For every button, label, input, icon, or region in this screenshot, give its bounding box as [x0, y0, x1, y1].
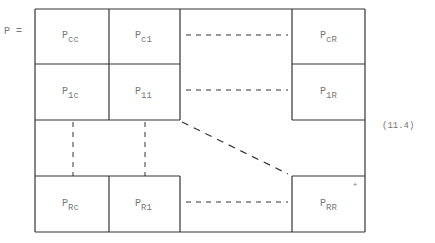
matrix-lhs: P =	[4, 26, 22, 37]
block-p-c1: Pc1	[135, 30, 152, 45]
block-p-1c: P1c	[62, 86, 79, 101]
block-p-1r: P1R	[320, 86, 337, 101]
block-p-rr: PRR	[320, 198, 337, 213]
block-p-cc: Pcc	[62, 30, 79, 45]
block-p-11: P11	[135, 86, 152, 101]
plus-mark: +	[353, 181, 357, 189]
equation-number: (11.4)	[382, 121, 414, 131]
block-p-cr: PcR	[320, 30, 337, 45]
block-p-rc: PRc	[62, 198, 79, 213]
block-p-r1: PR1	[135, 198, 152, 213]
